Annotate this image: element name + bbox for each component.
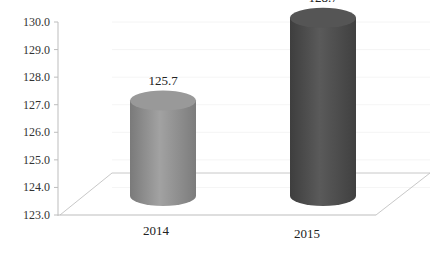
chart-floor: [60, 173, 430, 215]
y-tick-label: 125.0: [23, 153, 50, 167]
bar-2015: [290, 8, 356, 206]
y-tick-label: 124.0: [23, 180, 50, 194]
y-tick-label: 126.0: [23, 125, 50, 139]
bar-2014: [130, 91, 196, 206]
x-category-label: 2014: [143, 223, 170, 238]
data-label: 125.7: [148, 73, 178, 88]
y-tick-label: 129.0: [23, 43, 50, 57]
y-tick-label: 128.0: [23, 70, 50, 84]
y-tick-label: 127.0: [23, 98, 50, 112]
data-label: 128.7: [308, 0, 338, 5]
y-tick-label: 130.0: [23, 15, 50, 29]
x-category-label: 2015: [294, 226, 320, 241]
bars: 125.7128.7: [130, 0, 356, 206]
y-tick-label: 123.0: [23, 208, 50, 222]
x-axis-labels: 20142015: [143, 223, 320, 241]
cylinder-bar-chart: 123.0124.0125.0126.0127.0128.0129.0130.0…: [0, 0, 444, 254]
